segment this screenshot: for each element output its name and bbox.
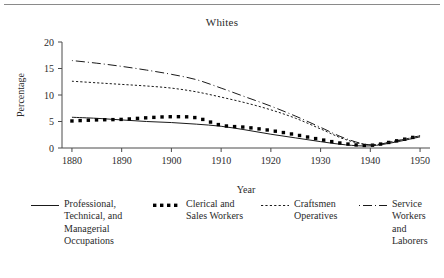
y-tick-label: 15 <box>44 63 54 74</box>
legend-item-professional[interactable]: Professional, Technical, and Managerial … <box>30 198 152 248</box>
y-tick-label: 0 <box>49 143 54 154</box>
x-tick-label: 1890 <box>112 155 132 166</box>
series-clerical-and-sales-workers <box>70 115 414 147</box>
x-tick-label: 1900 <box>161 155 181 166</box>
legend-label-service: Service Workers and Laborers <box>392 198 440 248</box>
x-axis-title: Year <box>237 184 256 195</box>
dash-dot-line-icon <box>358 199 388 212</box>
x-tick-label: 1930 <box>311 155 331 166</box>
y-tick-labels: 05101520 <box>44 37 54 154</box>
series-professional-technical-and-managerial-occupations <box>72 117 420 146</box>
legend-label-craftsmen: Craftsmen Operatives <box>294 198 337 223</box>
x-tick-label: 1950 <box>410 155 430 166</box>
solid-line-icon <box>30 199 60 212</box>
legend-item-craftsmen[interactable]: Craftsmen Operatives <box>260 198 358 223</box>
y-tick-label: 10 <box>44 90 54 101</box>
chart-legend: Professional, Technical, and Managerial … <box>30 198 440 248</box>
series-service-workers-and-laborers <box>72 61 420 145</box>
x-tick-label: 1920 <box>261 155 281 166</box>
x-tick-label: 1880 <box>62 155 82 166</box>
legend-item-service[interactable]: Service Workers and Laborers <box>358 198 440 248</box>
legend-item-clerical[interactable]: Clerical and Sales Workers <box>152 198 260 223</box>
legend-label-clerical: Clerical and Sales Workers <box>186 198 243 223</box>
series-craftsmen-operatives <box>72 81 420 145</box>
square-dotted-line-icon <box>152 199 182 212</box>
x-tick-labels: 18801890190019101920193019401950 <box>62 155 430 166</box>
chart-plot-area: 05101520 1880189019001910192019301940195… <box>0 0 444 200</box>
legend-label-professional: Professional, Technical, and Managerial … <box>64 198 122 248</box>
figure-container: Whites 05101520 188018901900191019201930… <box>0 0 444 278</box>
fine-dotted-line-icon <box>260 199 290 212</box>
axis-group <box>58 42 430 152</box>
y-axis-title: Percentage <box>15 73 26 117</box>
y-tick-label: 5 <box>49 116 54 127</box>
x-tick-label: 1940 <box>360 155 380 166</box>
x-tick-label: 1910 <box>211 155 231 166</box>
data-series-group <box>70 61 420 148</box>
y-tick-label: 20 <box>44 37 54 48</box>
